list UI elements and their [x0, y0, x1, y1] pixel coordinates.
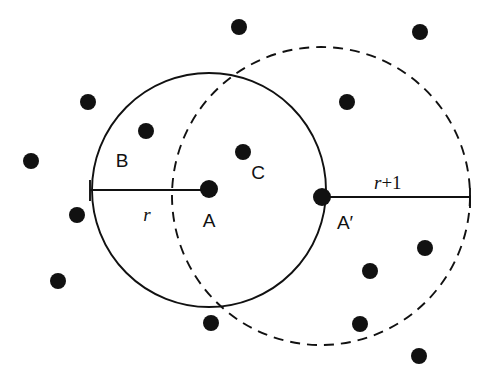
- point-a-marker: [200, 180, 218, 198]
- figure-background: [0, 0, 501, 374]
- scatter-point: [80, 94, 96, 110]
- geometry-diagram: B C A A′ r r+1: [0, 0, 501, 374]
- point-a-prime-marker: [313, 188, 331, 206]
- scatter-point: [69, 207, 85, 223]
- scatter-point: [362, 263, 378, 279]
- figure-canvas: B C A A′ r r+1: [0, 0, 501, 374]
- scatter-point: [231, 19, 247, 35]
- scatter-point: [203, 315, 219, 331]
- label-point-a: A: [203, 210, 216, 231]
- scatter-point: [417, 240, 433, 256]
- scatter-point: [138, 123, 154, 139]
- scatter-point: [339, 94, 355, 110]
- label-radius-r-plus-1: r+1: [374, 172, 402, 193]
- scatter-point: [23, 153, 39, 169]
- scatter-point: [412, 24, 428, 40]
- scatter-point: [235, 144, 251, 160]
- scatter-point: [50, 273, 66, 289]
- label-radius-r: r: [143, 204, 151, 225]
- label-region-c: C: [251, 162, 265, 183]
- label-point-a-prime: A′: [337, 212, 354, 233]
- scatter-point: [411, 348, 427, 364]
- label-region-b: B: [116, 150, 129, 171]
- label-radius-r-plus-1-operand: +1: [381, 172, 401, 193]
- scatter-point: [352, 316, 368, 332]
